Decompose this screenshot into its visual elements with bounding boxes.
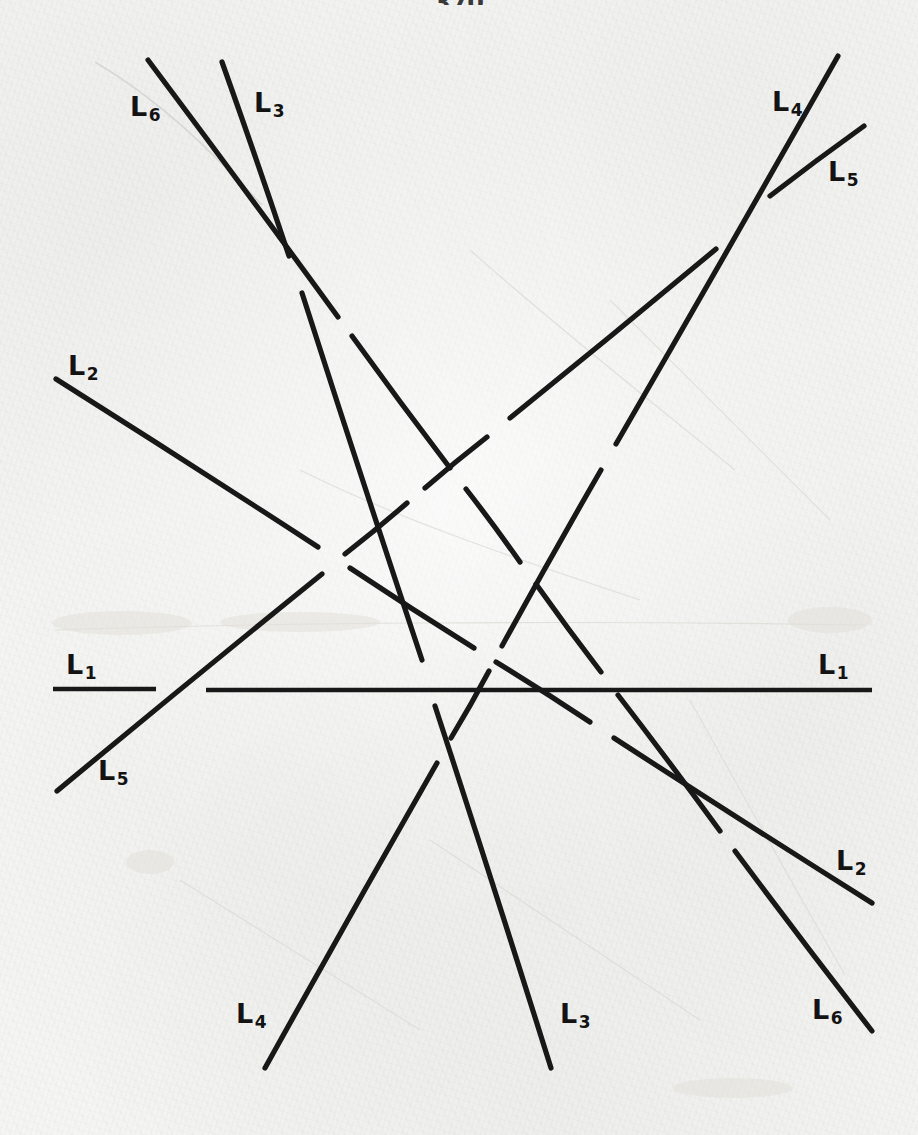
label-subscript: 4 xyxy=(255,1012,267,1032)
line-segment xyxy=(148,60,338,317)
label-subscript: 5 xyxy=(847,170,859,190)
line-segment xyxy=(510,249,716,418)
line-label-L5-lower-left: L5 xyxy=(98,757,128,784)
line-label-L3-top: L3 xyxy=(254,89,284,116)
label-subscript: 5 xyxy=(117,769,129,789)
label-subscript: 6 xyxy=(149,105,161,125)
line-segment xyxy=(466,489,520,562)
line-segment xyxy=(616,56,838,444)
label-subscript: 4 xyxy=(791,100,803,120)
label-subscript: 2 xyxy=(87,364,99,384)
label-base: L xyxy=(828,156,846,187)
label-subscript: 1 xyxy=(85,663,97,683)
label-base: L xyxy=(254,87,272,118)
line-segment xyxy=(451,671,489,738)
label-base: L xyxy=(68,350,86,381)
label-subscript: 3 xyxy=(273,101,285,121)
line-label-L2-upper-left: L2 xyxy=(68,352,98,379)
line-l3 xyxy=(222,62,551,1068)
label-base: L xyxy=(66,649,84,680)
line-segment xyxy=(352,336,450,468)
figure-page: 370 L1L1L2L2L3L3L4L4L5L5L6L6 xyxy=(0,0,918,1135)
label-subscript: 1 xyxy=(837,663,849,683)
label-base: L xyxy=(236,998,254,1029)
line-label-L5-top-right: L5 xyxy=(828,158,858,185)
line-arrangement-figure xyxy=(0,0,918,1135)
line-segment xyxy=(265,763,437,1068)
line-label-L6-bottom-right: L6 xyxy=(812,996,842,1023)
label-base: L xyxy=(560,998,578,1029)
line-label-L4-bottom-left: L4 xyxy=(236,1000,266,1027)
label-base: L xyxy=(836,845,854,876)
line-segment xyxy=(56,379,318,547)
line-l6 xyxy=(148,60,872,1031)
label-base: L xyxy=(812,994,830,1025)
line-segment xyxy=(614,738,872,903)
line-segment xyxy=(618,695,720,831)
line-segment xyxy=(435,706,551,1068)
label-base: L xyxy=(98,755,116,786)
line-label-L6-top-left: L6 xyxy=(130,93,160,120)
line-label-L1-right: L1 xyxy=(818,651,848,678)
label-base: L xyxy=(818,649,836,680)
line-label-L1-left: L1 xyxy=(66,651,96,678)
line-label-L3-bottom: L3 xyxy=(560,1000,590,1027)
line-label-L4-top-right: L4 xyxy=(772,88,802,115)
lines-group xyxy=(53,56,872,1068)
line-l4 xyxy=(265,56,838,1068)
label-subscript: 6 xyxy=(831,1008,843,1028)
label-base: L xyxy=(130,91,148,122)
line-segment xyxy=(536,584,601,672)
label-base: L xyxy=(772,86,790,117)
label-subscript: 2 xyxy=(855,859,867,879)
line-segment xyxy=(735,851,872,1031)
line-label-L2-lower-right: L2 xyxy=(836,847,866,874)
label-subscript: 3 xyxy=(579,1012,591,1032)
line-segment xyxy=(345,503,407,554)
